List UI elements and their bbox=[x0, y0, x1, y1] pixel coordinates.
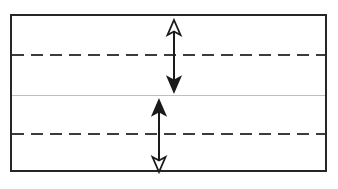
outer-rectangle bbox=[11, 15, 326, 171]
cross-section-diagram bbox=[0, 0, 338, 189]
diagram-canvas bbox=[0, 0, 338, 189]
